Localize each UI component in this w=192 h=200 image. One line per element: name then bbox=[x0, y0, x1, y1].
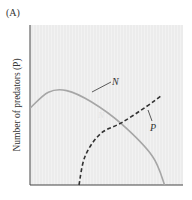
watermark: N bbox=[97, 110, 105, 120]
y-axis-label: Number of predators (P) bbox=[12, 58, 23, 151]
p-curve-label: P bbox=[149, 122, 156, 133]
chart: N N P Number of predators (P) bbox=[0, 0, 192, 200]
plot-area bbox=[30, 25, 183, 185]
n-curve-label: N bbox=[111, 76, 120, 87]
